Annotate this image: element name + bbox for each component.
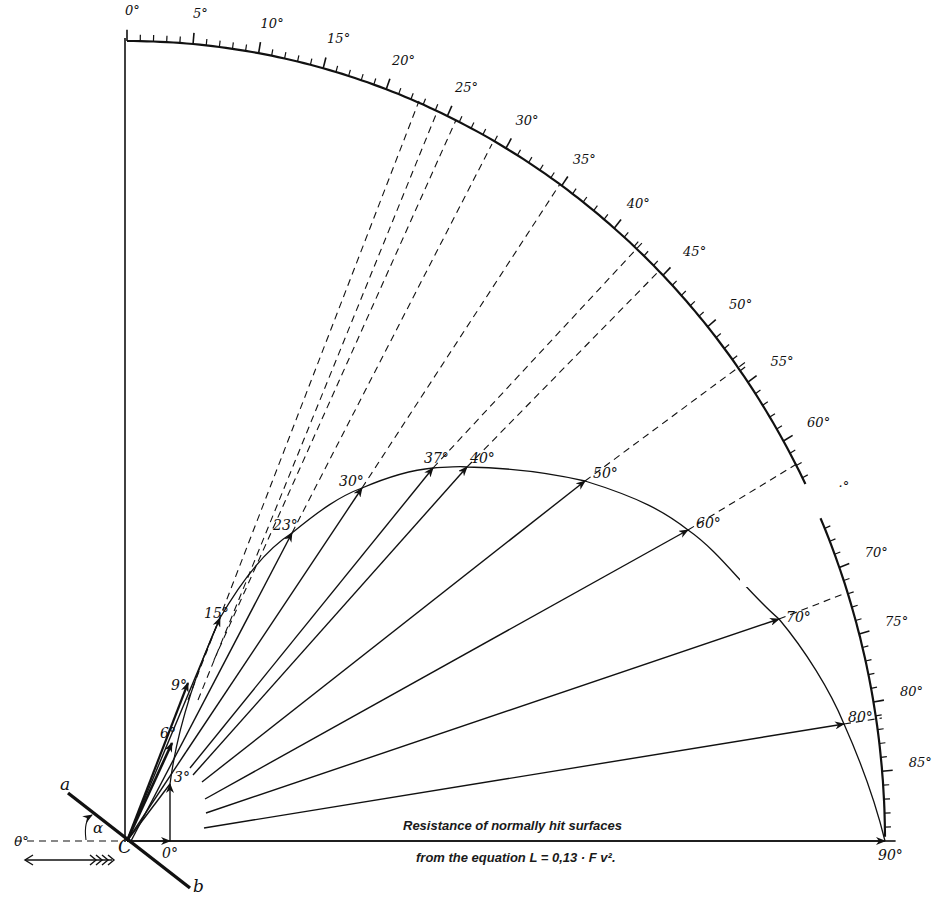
vector-60deg (205, 530, 688, 799)
label-c: C (118, 836, 132, 857)
alpha-angle-arc (85, 815, 92, 840)
label-a: a (60, 774, 70, 794)
label-alpha: α (93, 819, 103, 837)
projection-lines (188, 101, 882, 724)
scale-label: 35° (573, 152, 596, 167)
caption-line-2: from the equation L = 0,13 · F v². (416, 850, 616, 865)
scale-label: 0° (125, 3, 140, 18)
curve-label: 23° (272, 517, 298, 533)
vector-70deg (206, 619, 779, 813)
scale-label: 55° (771, 354, 794, 369)
curve-label: 37° (424, 450, 449, 466)
vector-80deg (204, 724, 844, 828)
curve-label: 30° (339, 473, 364, 489)
scale-label: 20° (391, 53, 415, 68)
curve-label: 80° (848, 709, 873, 725)
polar-diagram: 0°5°10°15°20°25°30°35°40°45°50°55°60°·°7… (0, 0, 933, 918)
scale-label: ·° (839, 479, 850, 494)
curve-label: 0° (162, 845, 178, 861)
curve-label: 9° (171, 677, 187, 693)
scale-label: 60° (807, 415, 830, 430)
label-b: b (193, 876, 204, 896)
scale-label: 75° (885, 614, 908, 629)
scale-label: 5° (193, 6, 208, 21)
curve-label: 3° (174, 769, 190, 785)
polar-curve-labels: 0°3°6°9°15°23°30°37°40°50°60°70°80° (160, 450, 873, 861)
scale-label: 80° (900, 684, 923, 699)
curve-label: 50° (593, 465, 618, 481)
scale-label: 40° (626, 196, 650, 211)
vector-50deg (202, 481, 585, 782)
scale-label: 25° (454, 80, 478, 95)
scale-label: 15° (327, 31, 350, 46)
svg-text:90°: 90° (878, 847, 903, 863)
caption-line-1: Resistance of normally hit surfaces (403, 818, 622, 833)
scale-label: 30° (515, 113, 538, 128)
curve-label: 6° (160, 725, 176, 741)
scale-label: 85° (909, 755, 932, 770)
scale-label: 45° (682, 244, 706, 259)
flow-direction-arrow (25, 855, 114, 865)
curve-label: 70° (786, 609, 811, 625)
outer-degree-scale: 0°5°10°15°20°25°30°35°40°45°50°55°60°·°7… (125, 3, 932, 863)
curve-label: 60° (696, 515, 721, 531)
scale-label: 50° (729, 297, 752, 312)
curve-label: 15° (204, 605, 229, 621)
curve-label: 40° (469, 450, 495, 466)
label-reference-0: 0° (14, 834, 29, 849)
scale-label: 10° (261, 16, 284, 31)
scale-label: 70° (865, 545, 888, 560)
force-vectors (127, 467, 885, 841)
